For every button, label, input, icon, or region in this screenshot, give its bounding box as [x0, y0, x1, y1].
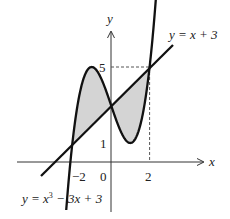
- line-equation-label: y = x + 3: [167, 27, 218, 42]
- tick-label-x-0: 0: [100, 169, 107, 184]
- tick-label-y-1: 1: [100, 136, 107, 151]
- tick-label-y-5: 5: [99, 60, 106, 75]
- x-axis-label: x: [208, 154, 215, 169]
- y-axis: [108, 31, 115, 212]
- tick-label-x-neg2: −2: [72, 169, 86, 184]
- y-axis-label: y: [105, 11, 113, 26]
- tick-label-x-2: 2: [145, 169, 152, 184]
- cubic-equation-label: y = x3 − 3x + 3: [20, 191, 103, 206]
- area-between-curves-diagram: 5 1 −2 0 2 y x y = x + 3 y = x3 − 3x + 3: [0, 0, 230, 219]
- line-curve: [41, 45, 173, 176]
